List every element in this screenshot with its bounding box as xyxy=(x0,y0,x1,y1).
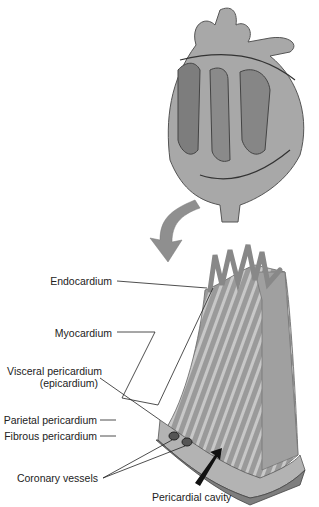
label-epicardium: (epicardium) xyxy=(0,377,98,389)
heart-illustration xyxy=(168,8,303,222)
label-pericardial-cavity: Pericardial cavity xyxy=(152,491,231,503)
label-myocardium: Myocardium xyxy=(0,327,112,339)
curved-arrow xyxy=(150,200,200,262)
label-visceral-pericardium: Visceral pericardium xyxy=(0,365,102,377)
label-parietal-pericardium: Parietal pericardium xyxy=(0,414,97,426)
label-coronary-vessels: Coronary vessels xyxy=(0,472,98,484)
heart-wall-section xyxy=(156,245,305,505)
label-endocardium: Endocardium xyxy=(0,275,112,287)
label-fibrous-pericardium: Fibrous pericardium xyxy=(0,430,97,442)
